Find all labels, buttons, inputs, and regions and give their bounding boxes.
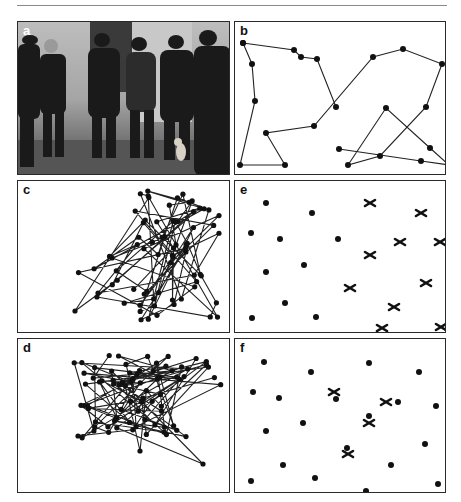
cross-marker — [365, 252, 375, 258]
point-marker — [363, 488, 369, 493]
point-marker — [79, 360, 84, 365]
point-marker — [435, 481, 441, 487]
cross-marker — [343, 451, 353, 457]
point-marker — [280, 462, 286, 468]
cross-marker — [364, 420, 374, 426]
point-marker — [138, 317, 143, 322]
point-marker — [423, 104, 429, 110]
panel-label-c: c — [23, 183, 30, 196]
point-marker — [123, 362, 128, 367]
point-marker — [395, 399, 401, 405]
point-marker — [167, 203, 172, 208]
point-marker — [106, 430, 111, 435]
point-marker — [291, 47, 297, 53]
point-marker — [107, 353, 112, 358]
point-marker — [168, 260, 173, 265]
point-marker — [171, 423, 176, 428]
point-marker — [109, 368, 114, 373]
point-marker — [427, 145, 433, 151]
point-marker — [309, 210, 315, 216]
top-rule — [17, 5, 447, 6]
point-marker — [133, 424, 138, 429]
point-marker — [366, 413, 372, 419]
panel-f-plot — [235, 339, 446, 493]
point-marker — [133, 208, 138, 213]
point-marker — [72, 360, 77, 365]
point-marker — [336, 146, 342, 152]
point-marker — [216, 213, 221, 218]
point-marker — [171, 302, 176, 307]
point-marker — [137, 448, 142, 453]
cross-marker — [365, 200, 375, 206]
point-marker — [158, 392, 163, 397]
point-marker — [263, 269, 269, 275]
point-marker — [160, 235, 165, 240]
point-marker — [114, 425, 119, 430]
point-marker — [173, 242, 178, 247]
point-marker — [433, 403, 439, 409]
point-marker — [137, 368, 142, 373]
point-marker — [117, 382, 122, 387]
point-marker — [173, 219, 178, 224]
point-marker — [216, 231, 221, 236]
point-marker — [150, 399, 155, 404]
panel-b-plot — [235, 22, 446, 175]
point-marker — [138, 380, 143, 385]
point-marker — [131, 287, 136, 292]
panel-c-plot — [18, 181, 230, 333]
point-marker — [311, 123, 317, 129]
cross-marker — [436, 324, 446, 330]
panel-c-tour: c — [17, 180, 230, 333]
point-marker — [333, 104, 339, 110]
point-marker — [111, 378, 116, 383]
point-marker — [344, 445, 350, 451]
point-marker — [192, 284, 197, 289]
point-marker — [92, 365, 97, 370]
point-marker — [301, 262, 307, 268]
point-marker — [308, 369, 314, 375]
point-marker — [142, 417, 147, 422]
point-marker — [123, 383, 128, 388]
point-marker — [80, 435, 85, 440]
point-marker — [208, 314, 213, 319]
point-marker — [204, 362, 209, 367]
point-marker — [105, 424, 110, 429]
point-marker — [383, 105, 389, 111]
point-marker — [145, 189, 150, 194]
point-marker — [211, 223, 216, 228]
point-marker — [151, 296, 156, 301]
point-marker — [314, 56, 320, 62]
point-marker — [156, 290, 161, 295]
point-marker — [135, 242, 140, 247]
point-marker — [180, 192, 185, 197]
point-marker — [114, 268, 119, 273]
panel-label-e: e — [240, 183, 247, 196]
panel-b-tour: b — [234, 21, 446, 175]
point-marker — [214, 300, 219, 305]
point-marker — [418, 158, 424, 164]
point-marker — [159, 409, 164, 414]
point-marker — [298, 54, 304, 60]
point-marker — [81, 403, 86, 408]
panel-label-b: b — [240, 24, 248, 37]
point-marker — [152, 422, 157, 427]
point-marker — [99, 378, 104, 383]
point-marker — [249, 61, 255, 67]
point-marker — [127, 370, 132, 375]
point-marker — [145, 354, 150, 359]
point-marker — [277, 236, 283, 242]
point-marker — [119, 407, 124, 412]
point-marker — [115, 278, 120, 283]
point-marker — [198, 272, 203, 277]
point-marker — [250, 389, 256, 395]
point-marker — [136, 409, 141, 414]
point-marker — [248, 230, 254, 236]
point-marker — [156, 252, 161, 257]
point-marker — [313, 314, 319, 320]
point-marker — [185, 241, 190, 246]
point-marker — [366, 360, 372, 366]
point-marker — [83, 382, 88, 387]
point-marker — [439, 61, 445, 67]
point-marker — [192, 272, 197, 277]
point-marker — [138, 309, 143, 314]
